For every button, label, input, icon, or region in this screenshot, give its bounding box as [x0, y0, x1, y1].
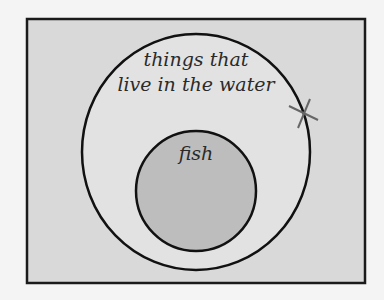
outer-set-label-line1: things that	[144, 48, 249, 70]
outer-set-label-line2: live in the water	[117, 73, 276, 95]
venn-diagram: things that live in the water fish	[0, 0, 384, 300]
inner-set-label: fish	[177, 142, 214, 164]
